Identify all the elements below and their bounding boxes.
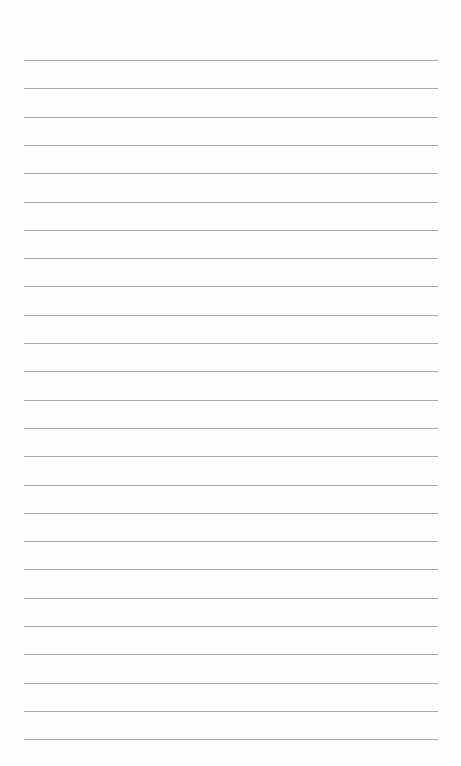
ruled-line xyxy=(24,286,438,287)
ruled-line xyxy=(24,258,438,259)
ruled-line xyxy=(24,343,438,344)
ruled-line xyxy=(24,88,438,89)
lined-paper-sheet xyxy=(0,0,461,766)
ruled-line xyxy=(24,711,438,712)
ruled-line xyxy=(24,569,438,570)
ruled-line xyxy=(24,485,438,486)
ruled-line xyxy=(24,626,438,627)
ruled-line xyxy=(24,654,438,655)
ruled-line xyxy=(24,739,438,740)
ruled-line xyxy=(24,230,438,231)
ruled-line xyxy=(24,400,438,401)
ruled-line xyxy=(24,145,438,146)
ruled-line xyxy=(24,428,438,429)
ruled-line xyxy=(24,541,438,542)
ruled-line xyxy=(24,315,438,316)
ruled-line xyxy=(24,683,438,684)
ruled-line xyxy=(24,456,438,457)
ruled-line xyxy=(24,598,438,599)
ruled-line xyxy=(24,117,438,118)
ruled-line xyxy=(24,173,438,174)
ruled-line xyxy=(24,202,438,203)
ruled-line xyxy=(24,60,438,61)
ruled-line xyxy=(24,371,438,372)
ruled-line xyxy=(24,513,438,514)
